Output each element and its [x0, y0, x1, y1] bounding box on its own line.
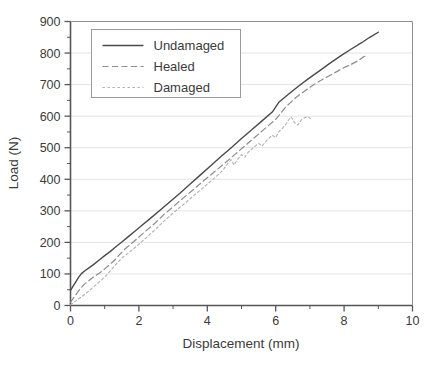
y-tick-label: 400 [40, 173, 61, 187]
legend-label-healed: Healed [154, 59, 195, 74]
legend-label-undamaged: Undamaged [154, 38, 225, 53]
y-tick-label: 800 [40, 47, 61, 61]
y-tick-label: 200 [40, 236, 61, 250]
x-tick-label: 10 [406, 314, 420, 328]
y-axis-title: Load (N) [6, 137, 21, 190]
chart-figure: 0246810 0100200300400500600700800900 Dis… [0, 0, 439, 365]
y-tick-label: 0 [54, 299, 61, 313]
y-tick-label: 100 [40, 267, 61, 281]
y-tick-label: 300 [40, 204, 61, 218]
x-tick-label: 2 [135, 314, 142, 328]
legend-label-damaged: Damaged [154, 80, 210, 95]
x-axis-title: Displacement (mm) [182, 336, 299, 351]
y-tick-label: 600 [40, 110, 61, 124]
x-tick-label: 8 [341, 314, 348, 328]
y-tick-label: 500 [40, 141, 61, 155]
y-tick-label: 700 [40, 78, 61, 92]
x-tick-label: 4 [204, 314, 211, 328]
x-tick-label: 6 [272, 314, 279, 328]
chart-legend: UndamagedHealedDamaged [92, 30, 241, 98]
load-displacement-line-chart: 0246810 0100200300400500600700800900 Dis… [0, 0, 439, 365]
y-tick-label: 900 [40, 15, 61, 29]
x-tick-label: 0 [67, 314, 74, 328]
